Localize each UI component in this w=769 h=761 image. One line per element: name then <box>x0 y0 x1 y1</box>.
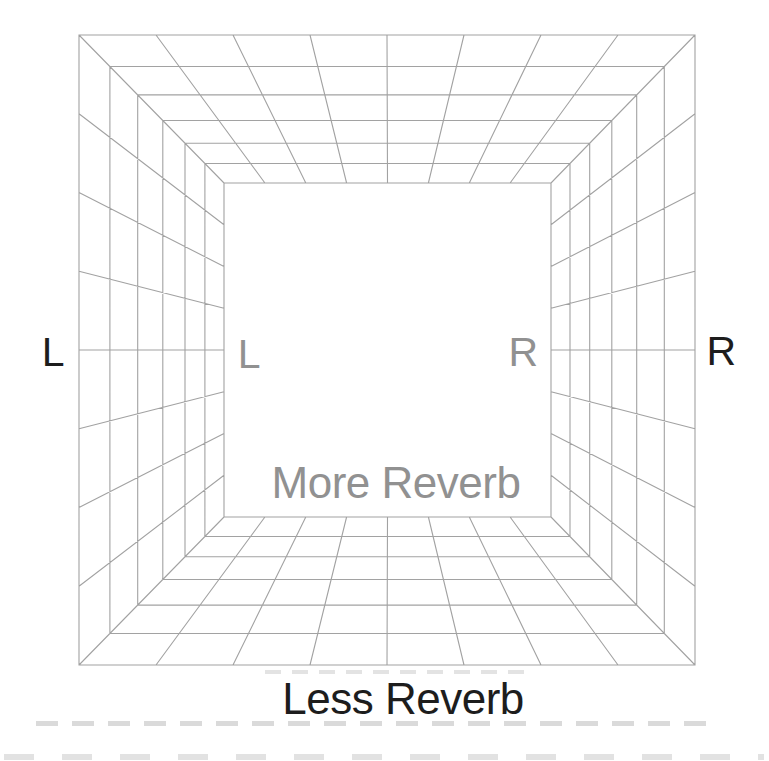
scan-bleed-artifact <box>36 721 712 726</box>
outer-left-label: L <box>42 332 64 373</box>
perspective-grid <box>0 0 769 761</box>
grid-lines <box>79 35 695 665</box>
scan-bleed-artifact <box>265 670 527 674</box>
more-reverb-label: More Reverb <box>272 461 521 505</box>
inner-left-label: L <box>238 334 260 375</box>
scan-bleed-artifact <box>4 754 764 760</box>
inner-right-label: R <box>508 332 537 373</box>
outer-right-label: R <box>706 331 735 372</box>
less-reverb-label: Less Reverb <box>282 677 524 721</box>
reverb-depth-diagram: L L R R More Reverb Less Reverb <box>0 0 769 761</box>
